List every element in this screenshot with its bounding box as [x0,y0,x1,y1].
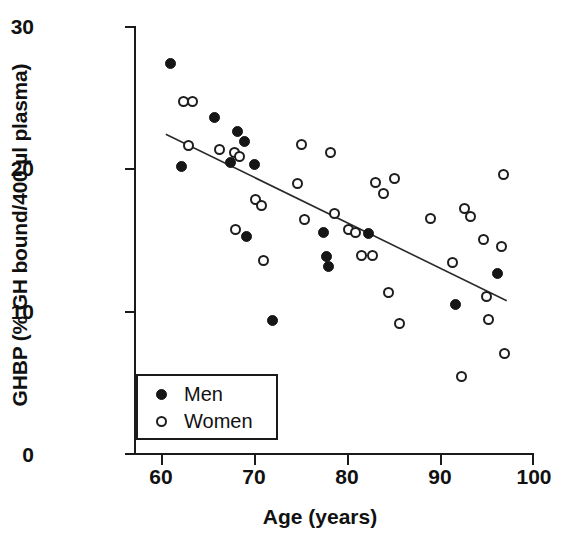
x-tick-60 [161,455,163,465]
x-tick-label-100: 100 [504,466,564,487]
x-tick-90 [440,455,442,465]
y-axis-title: GHBP (% GH bound/400 µl plasma) [0,0,40,470]
x-tick-70 [254,455,256,465]
data-point-women [389,173,400,184]
data-point-women [498,169,509,180]
data-point-women [394,318,405,329]
y-tick-label-10: 10 [0,301,34,322]
data-point-women [356,250,367,261]
legend-label-men: Men [184,384,223,404]
data-point-men [323,261,334,272]
x-axis-title: Age (years) [100,505,540,529]
data-point-men [267,315,278,326]
data-point-women [183,140,194,151]
scatter-plot-figure: GHBP (% GH bound/400 µl plasma) 30 20 10… [0,0,569,548]
data-point-women [329,208,340,219]
legend-marker-women-wrap [138,416,184,427]
data-point-men [232,126,243,137]
y-tick-label-30: 30 [0,16,34,37]
open-circle-icon [156,416,167,427]
x-tick-80 [347,455,349,465]
data-point-women [496,241,507,252]
legend: Men Women [136,374,278,440]
data-point-men [209,112,220,123]
legend-marker-men-wrap [138,389,184,400]
legend-entry-women: Women [138,407,280,435]
x-tick-label-90: 90 [410,466,470,487]
x-tick-label-70: 70 [224,466,284,487]
data-point-women [456,371,467,382]
data-point-women [325,147,336,158]
y-tick-label-20: 20 [0,158,34,179]
data-point-women [187,96,198,107]
data-point-women [296,139,307,150]
x-tick-label-80: 80 [317,466,377,487]
data-point-women [367,250,378,261]
data-point-women [425,213,436,224]
data-point-men [249,159,260,170]
data-point-women [447,257,458,268]
data-point-men [165,58,176,69]
data-point-women [258,255,269,266]
data-point-men [318,227,329,238]
legend-label-women: Women [184,411,253,431]
data-point-women [465,211,476,222]
legend-entry-men: Men [138,380,280,408]
data-point-women [378,188,389,199]
data-point-women [383,287,394,298]
filled-circle-icon [156,389,167,400]
x-tick-100 [532,455,534,465]
data-point-women [256,200,267,211]
data-point-women [478,234,489,245]
y-tick-label-0: 0 [0,444,34,465]
data-point-women [483,314,494,325]
x-tick-label-60: 60 [131,466,191,487]
